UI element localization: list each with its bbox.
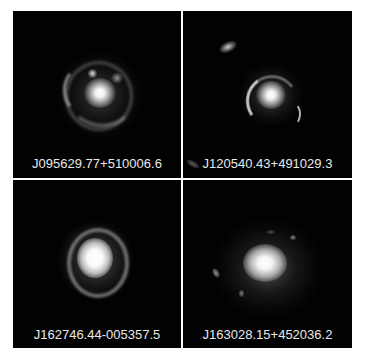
lens-panel-bottom-left: J162746.44-005357.5 xyxy=(13,180,181,348)
lens-galaxy-core xyxy=(243,244,287,282)
object-label: J120540.43+491029.3 xyxy=(183,156,352,171)
lens-galaxy-core xyxy=(256,81,286,109)
lensed-image-spot xyxy=(88,69,97,78)
lensed-image-spot xyxy=(267,230,275,234)
lensed-image-spot xyxy=(290,235,296,240)
lens-image-grid: J095629.77+510006.6 J120540.43+491029.3 … xyxy=(13,11,352,348)
lensed-image-spot xyxy=(239,290,244,297)
companion-galaxy xyxy=(218,39,239,56)
object-label: J163028.15+452036.2 xyxy=(183,327,352,342)
counter-arc xyxy=(287,103,301,125)
lens-panel-top-right: J120540.43+491029.3 xyxy=(183,11,352,178)
lensed-image-spot xyxy=(111,73,123,83)
lens-galaxy-core xyxy=(84,78,116,108)
object-label: J095629.77+510006.6 xyxy=(13,156,181,171)
lens-panel-bottom-right: J163028.15+452036.2 xyxy=(183,180,352,348)
lens-galaxy-core xyxy=(77,238,113,278)
object-label: J162746.44-005357.5 xyxy=(13,327,181,342)
lens-panel-top-left: J095629.77+510006.6 xyxy=(13,11,181,178)
